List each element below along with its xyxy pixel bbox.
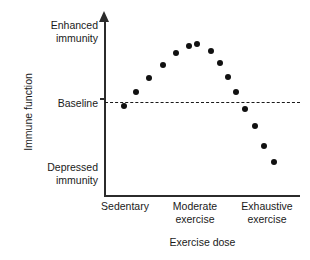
immune-function-exercise-chart: Enhanced immunity Baseline Depressed imm… [0, 0, 310, 260]
data-point [146, 75, 152, 81]
data-point [252, 123, 258, 129]
data-point [121, 103, 127, 109]
data-point [271, 159, 277, 165]
data-point [133, 89, 139, 95]
data-point-layer [0, 0, 310, 260]
data-point [173, 50, 179, 56]
data-point [217, 60, 223, 66]
data-point [194, 41, 200, 47]
data-point [233, 89, 239, 95]
data-point [160, 62, 166, 68]
data-point [261, 143, 267, 149]
data-point [186, 43, 192, 49]
data-point [225, 74, 231, 80]
data-point [242, 106, 248, 112]
data-point [208, 48, 214, 54]
